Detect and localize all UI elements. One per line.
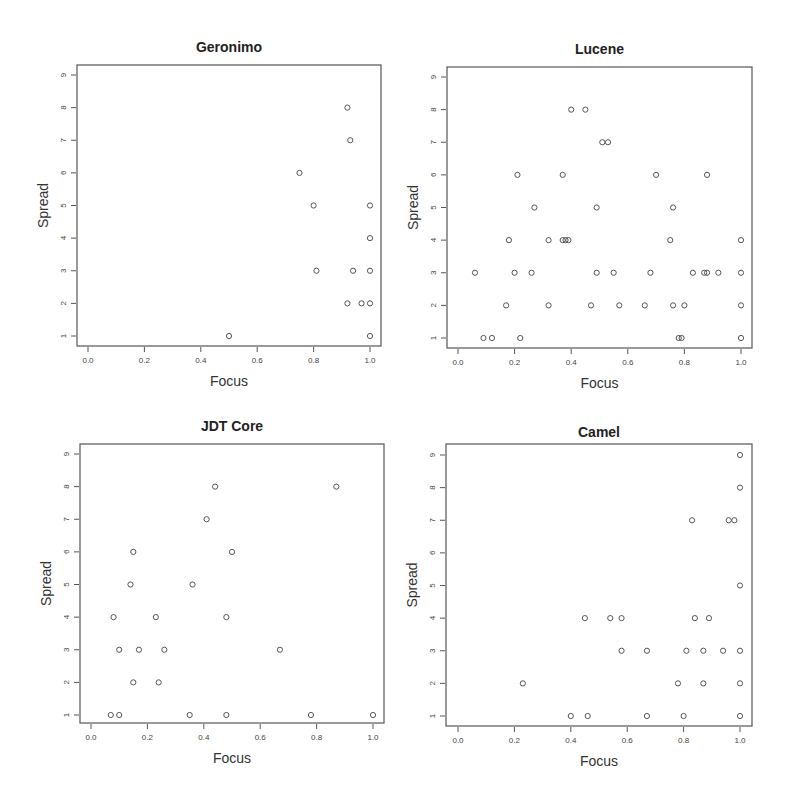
data-point	[675, 681, 680, 686]
data-point	[594, 270, 599, 275]
data-point	[224, 712, 229, 717]
data-point	[682, 303, 687, 308]
data-point	[345, 105, 350, 110]
x-axis: 0.00.20.40.60.81.0Focus	[452, 727, 746, 769]
x-axis-label: Focus	[580, 753, 618, 769]
data-point	[644, 713, 649, 718]
data-point	[518, 335, 523, 340]
data-point	[670, 303, 675, 308]
x-tick-label: 0.0	[82, 356, 94, 365]
data-point	[732, 518, 737, 523]
x-tick-label: 1.0	[734, 736, 746, 745]
x-tick-label: 0.2	[509, 358, 521, 367]
x-axis-label: Focus	[210, 373, 248, 389]
chart-title: JDT Core	[201, 418, 263, 434]
y-tick-label: 9	[428, 452, 437, 457]
x-axis: 0.00.20.40.60.81.0Focus	[452, 349, 747, 391]
data-point	[334, 484, 339, 489]
data-point	[128, 582, 133, 587]
x-tick-label: 0.4	[195, 356, 207, 365]
data-point	[701, 648, 706, 653]
data-point	[684, 648, 689, 653]
y-tick-label: 5	[62, 582, 71, 587]
data-point	[568, 713, 573, 718]
data-point	[504, 303, 509, 308]
data-point	[472, 270, 477, 275]
data-point	[569, 107, 574, 112]
data-point	[297, 170, 302, 175]
y-tick-label: 3	[59, 268, 68, 273]
data-point	[654, 172, 659, 177]
y-tick-label: 5	[428, 583, 437, 588]
data-point	[153, 615, 158, 620]
data-point	[692, 616, 697, 621]
y-tick-label: 2	[429, 303, 438, 308]
data-point	[605, 140, 610, 145]
data-point	[489, 335, 494, 340]
data-point	[367, 203, 372, 208]
data-point	[367, 268, 372, 273]
data-point	[520, 681, 525, 686]
data-point	[311, 203, 316, 208]
x-tick-label: 0.6	[255, 733, 267, 742]
y-tick-label: 1	[62, 712, 71, 717]
x-tick-label: 1.0	[364, 356, 376, 365]
scatter-panel-camel: Camel0.00.20.40.60.81.0Focus123456789Spr…	[404, 424, 752, 769]
data-point	[529, 270, 534, 275]
data-point	[619, 648, 624, 653]
y-tick-label: 7	[62, 516, 71, 521]
x-tick-label: 0.0	[85, 733, 97, 742]
y-axis: 123456789Spread	[405, 74, 446, 340]
data-point	[515, 172, 520, 177]
y-tick-label: 7	[429, 139, 438, 144]
y-tick-label: 9	[62, 451, 71, 456]
x-tick-label: 0.8	[308, 356, 320, 365]
data-point	[582, 616, 587, 621]
y-tick-label: 3	[62, 647, 71, 652]
data-point	[642, 303, 647, 308]
data-point	[204, 517, 209, 522]
data-point	[367, 333, 372, 338]
x-tick-label: 0.8	[678, 736, 690, 745]
y-tick-label: 4	[62, 614, 71, 619]
y-tick-label: 5	[59, 203, 68, 208]
data-point	[187, 712, 192, 717]
data-point	[560, 172, 565, 177]
x-axis: 0.00.20.40.60.81.0Focus	[82, 347, 376, 389]
scatter-panel-jdt-core: JDT Core0.00.20.40.60.81.0Focus123456789…	[38, 418, 384, 766]
y-axis: 123456789Spread	[38, 451, 79, 717]
y-tick-label: 3	[428, 648, 437, 653]
data-point	[608, 616, 613, 621]
y-tick-label: 9	[59, 72, 68, 77]
y-tick-label: 8	[59, 105, 68, 110]
x-tick-label: 0.2	[509, 736, 521, 745]
data-point	[108, 712, 113, 717]
x-tick-label: 0.4	[198, 733, 210, 742]
y-axis: 123456789Spread	[404, 452, 445, 718]
y-axis: 123456789Spread	[35, 72, 76, 338]
chart-title: Lucene	[575, 41, 624, 57]
y-tick-label: 9	[429, 74, 438, 79]
data-point	[737, 648, 742, 653]
data-point	[367, 301, 372, 306]
x-tick-label: 0.4	[565, 736, 577, 745]
y-tick-label: 6	[59, 170, 68, 175]
data-point	[131, 549, 136, 554]
data-point	[546, 303, 551, 308]
data-point	[532, 205, 537, 210]
data-point	[737, 583, 742, 588]
x-axis-label: Focus	[580, 375, 618, 391]
data-point	[190, 582, 195, 587]
data-point	[117, 712, 122, 717]
data-point	[546, 238, 551, 243]
data-point	[726, 518, 731, 523]
x-axis-label: Focus	[213, 750, 251, 766]
y-axis-label: Spread	[38, 561, 54, 606]
data-point	[738, 238, 743, 243]
y-tick-label: 1	[428, 713, 437, 718]
data-point	[706, 616, 711, 621]
x-tick-label: 1.0	[367, 733, 379, 742]
data-point	[588, 303, 593, 308]
x-tick-label: 0.0	[452, 358, 464, 367]
data-point	[644, 648, 649, 653]
